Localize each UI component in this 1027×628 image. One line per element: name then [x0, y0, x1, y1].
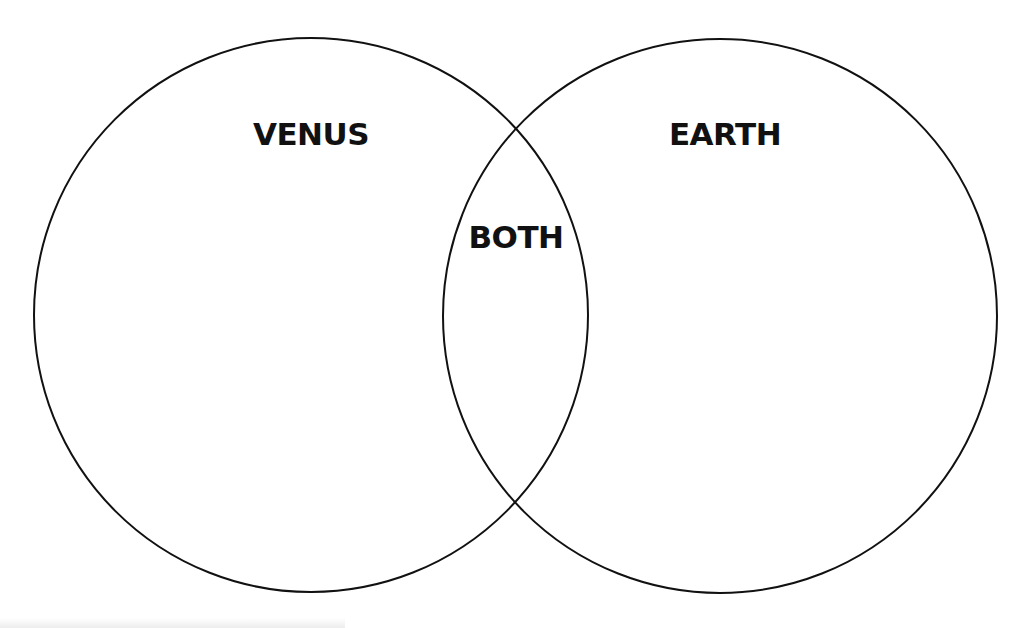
venus-label: VENUS [253, 119, 369, 150]
page-edge-shadow [0, 618, 345, 628]
venn-diagram [0, 0, 1027, 628]
earth-label: EARTH [669, 119, 781, 150]
both-label: BOTH [468, 222, 563, 253]
